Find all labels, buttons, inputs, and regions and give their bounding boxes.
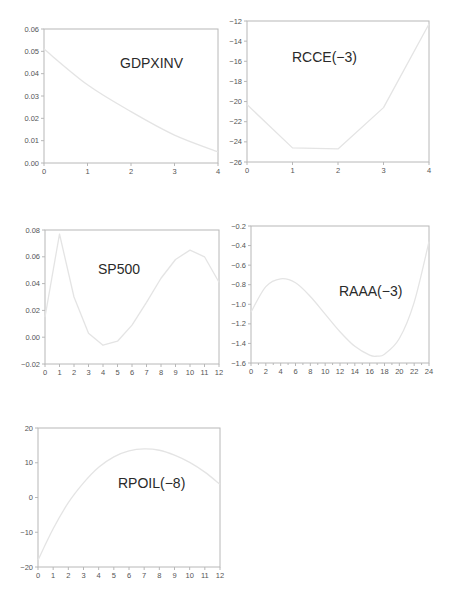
y-tick-label: 0 [29, 493, 33, 502]
x-tick-label: 11 [201, 571, 209, 580]
y-tick-label: −10 [20, 528, 33, 537]
x-tick-label: 7 [142, 571, 146, 580]
series-line [38, 449, 220, 560]
x-tick-label: 0 [36, 571, 40, 580]
x-tick-label: 4 [97, 571, 101, 580]
x-tick-label: 1 [51, 571, 55, 580]
x-tick-label: 5 [112, 571, 116, 580]
x-tick-label: 10 [185, 571, 193, 580]
y-tick-label: 10 [25, 458, 33, 467]
x-tick-label: 8 [157, 571, 161, 580]
chart-svg: −20−10010200123456789101112RPOIL(−8) [0, 0, 455, 594]
x-tick-label: 2 [66, 571, 70, 580]
x-tick-label: 3 [81, 571, 85, 580]
x-tick-label: 6 [127, 571, 131, 580]
x-tick-label: 12 [216, 571, 224, 580]
y-tick-label: 20 [25, 424, 33, 433]
chart-title: RPOIL(−8) [118, 475, 185, 491]
plot-frame [38, 428, 220, 567]
figure: 0.000.010.020.030.040.050.0601234GDPXINV… [0, 0, 455, 594]
y-tick-label: −20 [20, 563, 33, 572]
x-tick-label: 9 [172, 571, 176, 580]
